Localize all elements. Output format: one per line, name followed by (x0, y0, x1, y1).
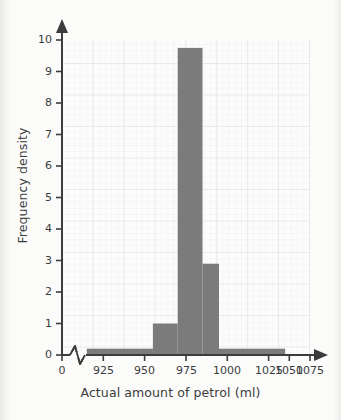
x-tick-label-0: 0 (48, 364, 76, 377)
y-tick-label-8: 8 (26, 96, 52, 109)
y-tick-label-0: 0 (26, 348, 52, 361)
y-tick-label-10: 10 (22, 33, 52, 46)
y-tick-label-5: 5 (26, 191, 52, 204)
y-tick-label-1: 1 (26, 317, 52, 330)
x-tick-label-1000: 1000 (203, 364, 251, 377)
x-tick-label-1075: 1075 (286, 364, 334, 377)
y-tick-label-7: 7 (26, 128, 52, 141)
y-axis-title: Frequency density (15, 101, 30, 271)
y-tick-label-4: 4 (26, 222, 52, 235)
y-axis (56, 31, 62, 355)
x-tick-label-950: 950 (124, 364, 165, 377)
y-tick-label-2: 2 (26, 285, 52, 298)
y-tick-label-3: 3 (26, 254, 52, 267)
bar-995-1010 (178, 48, 203, 355)
y-tick-label-9: 9 (26, 65, 52, 78)
x-tick-label-925: 925 (83, 364, 124, 377)
x-tick-label-975: 975 (166, 364, 207, 377)
x-axis-title: Actual amount of petrol (ml) (0, 385, 341, 400)
y-tick-label-6: 6 (26, 159, 52, 172)
bar-1010-1020 (203, 264, 220, 355)
bar-980-995 (153, 324, 178, 356)
